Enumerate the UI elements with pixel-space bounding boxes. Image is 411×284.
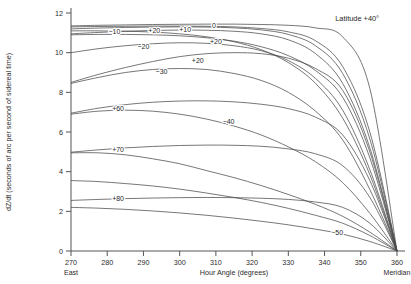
curve-label-+60: +60 [112,105,124,112]
curve-label--50: −50 [331,229,343,236]
curve-+80 [71,197,397,251]
curve--30 [71,69,397,251]
x-axis-right-end-label: Meridian [384,269,411,276]
chart-title: Latitude +40° [335,14,379,23]
y-axis-title: dZ/dt (seconds of arc per second of side… [4,53,13,211]
curve-label-+20c: +20 [192,57,204,64]
curve-label--10: −10 [109,28,121,35]
x-tick-label: 340 [319,258,331,267]
x-tick-label: 310 [210,258,222,267]
x-axis-left-end-label: East [64,269,78,276]
curve-label--20: −20 [138,43,150,50]
x-tick-label: 270 [65,258,77,267]
x-tick-label: 350 [355,258,367,267]
chart-figure: 024681012270280290300310320330340350360E… [0,0,411,284]
x-tick-label: 320 [246,258,258,267]
curve-0 [71,26,397,251]
y-tick-label: 6 [59,128,63,137]
x-tick-label: 290 [137,258,149,267]
curve-+20b [71,34,397,251]
curve-label-+10: +10 [179,26,191,33]
curve-label-+20b: +20 [210,38,222,45]
x-tick-label: 300 [174,258,186,267]
chart-svg: 024681012270280290300310320330340350360E… [0,0,411,284]
curve-+40 [71,24,397,251]
x-tick-label: 280 [101,258,113,267]
curve--40 [71,110,397,251]
y-tick-label: 10 [55,48,63,57]
curve-label-+20: +20 [148,27,160,34]
curve-+10 [71,27,397,251]
y-tick-label: 0 [59,247,63,256]
curve-label-+80: +80 [112,195,124,202]
x-tick-label: 360 [391,258,403,267]
y-tick-label: 4 [59,167,63,176]
x-axis-title: Hour Angle (degrees) [200,268,268,277]
y-tick-label: 2 [59,207,63,216]
y-tick-label: 8 [59,88,63,97]
curve-label-0: 0 [212,22,216,29]
curve-label--30: −30 [156,68,168,75]
curve-conv2 [71,207,397,251]
curve-conv1 [71,181,397,251]
curve-label--40: −40 [223,118,235,125]
curve-label-+70: +70 [112,146,124,153]
x-tick-label: 330 [282,258,294,267]
y-tick-label: 12 [55,9,63,18]
